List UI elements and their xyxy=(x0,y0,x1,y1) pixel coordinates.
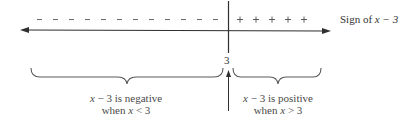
negative-region-line1: x − 3 is negative xyxy=(76,92,176,104)
positive-region-text: − 3 is positive xyxy=(248,92,313,104)
positive-region-line2: when x > 3 xyxy=(228,104,328,116)
positive-region-line1: x − 3 is positive xyxy=(228,92,328,104)
positive-signs xyxy=(237,17,307,23)
axis-sign-label-prefix: Sign of xyxy=(340,13,375,25)
axis-sign-label: Sign of x − 3 xyxy=(340,13,398,25)
positive-region-label: x − 3 is positive when x > 3 xyxy=(228,92,328,116)
negative-region-text: − 3 is negative xyxy=(95,92,162,104)
axis-sign-label-expr: x − 3 xyxy=(375,13,398,25)
right-region-brace xyxy=(233,68,321,84)
negative-region-line2: when x < 3 xyxy=(76,104,176,116)
negative-region-label: x − 3 is negative when x < 3 xyxy=(76,92,176,116)
up-arrowhead-icon xyxy=(226,70,231,77)
left-arrowhead-icon xyxy=(20,27,29,33)
right-arrowhead-icon xyxy=(322,28,331,34)
when-text: when xyxy=(102,104,129,116)
number-line xyxy=(24,30,325,31)
condition-text: > 3 xyxy=(285,104,302,116)
when-text: when xyxy=(254,104,281,116)
critical-point-label: 3 xyxy=(224,54,230,66)
left-region-brace xyxy=(31,68,223,84)
condition-text: < 3 xyxy=(133,104,150,116)
